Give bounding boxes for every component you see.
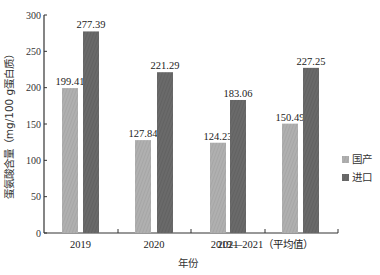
legend-label-domestic: 国产 xyxy=(352,153,372,165)
y-axis: 050100150200250300 xyxy=(26,10,47,239)
y-tick-label: 300 xyxy=(26,10,41,21)
y-tick-label: 150 xyxy=(26,119,41,130)
bar-group: 150.49227.252019—2021（平均值） xyxy=(211,56,326,250)
legend-item-imported: 进口 xyxy=(342,171,372,183)
bar-value-label: 199.41 xyxy=(56,76,85,87)
x-category-label: 2019—2021（平均值） xyxy=(211,238,314,250)
bar-value-label: 127.84 xyxy=(129,128,159,139)
bar-imported xyxy=(303,68,319,233)
bar-chart: 蛋氨酸含量（mg/100 g蛋白质） 050100150200250300 年份… xyxy=(0,0,380,275)
x-category-label: 2019 xyxy=(70,239,91,250)
bar-imported xyxy=(230,100,246,233)
legend-label-imported: 进口 xyxy=(352,171,372,183)
y-tick-label: 200 xyxy=(26,82,41,93)
bar-domestic xyxy=(210,143,226,233)
y-tick-label: 0 xyxy=(36,228,41,239)
bar-value-label: 183.06 xyxy=(224,88,253,99)
bar-group: 124.23183.062021 xyxy=(204,88,253,250)
y-tick-label: 50 xyxy=(31,191,41,202)
x-category-label: 2020 xyxy=(144,239,165,250)
bar-value-label: 227.25 xyxy=(297,56,326,67)
bar-value-label: 150.49 xyxy=(276,112,305,123)
bar-value-label: 277.39 xyxy=(77,19,106,30)
bar-domestic xyxy=(282,124,298,233)
x-axis-title: 年份 xyxy=(178,257,199,269)
bar-group: 199.41277.392019 xyxy=(56,19,106,250)
y-tick-label: 250 xyxy=(26,46,41,57)
bar-imported xyxy=(83,31,99,233)
y-axis-title: 蛋氨酸含量（mg/100 g蛋白质） xyxy=(3,49,15,199)
bar-domestic xyxy=(62,88,78,233)
bar-value-label: 221.29 xyxy=(151,60,180,71)
legend-swatch-imported xyxy=(342,174,349,181)
legend: 国产 进口 xyxy=(342,153,372,183)
bar-group: 127.84221.292020 xyxy=(129,60,180,250)
legend-swatch-domestic xyxy=(342,156,349,163)
y-axis-title-text: 蛋氨酸含量（mg/100 g蛋白质） xyxy=(3,49,15,199)
bar-imported xyxy=(157,72,173,233)
bar-groups: 199.41277.392019127.84221.292020124.2318… xyxy=(56,19,326,250)
bar-value-label: 124.23 xyxy=(204,131,233,142)
y-tick-label: 100 xyxy=(26,155,41,166)
bar-domestic xyxy=(135,140,151,233)
legend-item-domestic: 国产 xyxy=(342,153,372,165)
